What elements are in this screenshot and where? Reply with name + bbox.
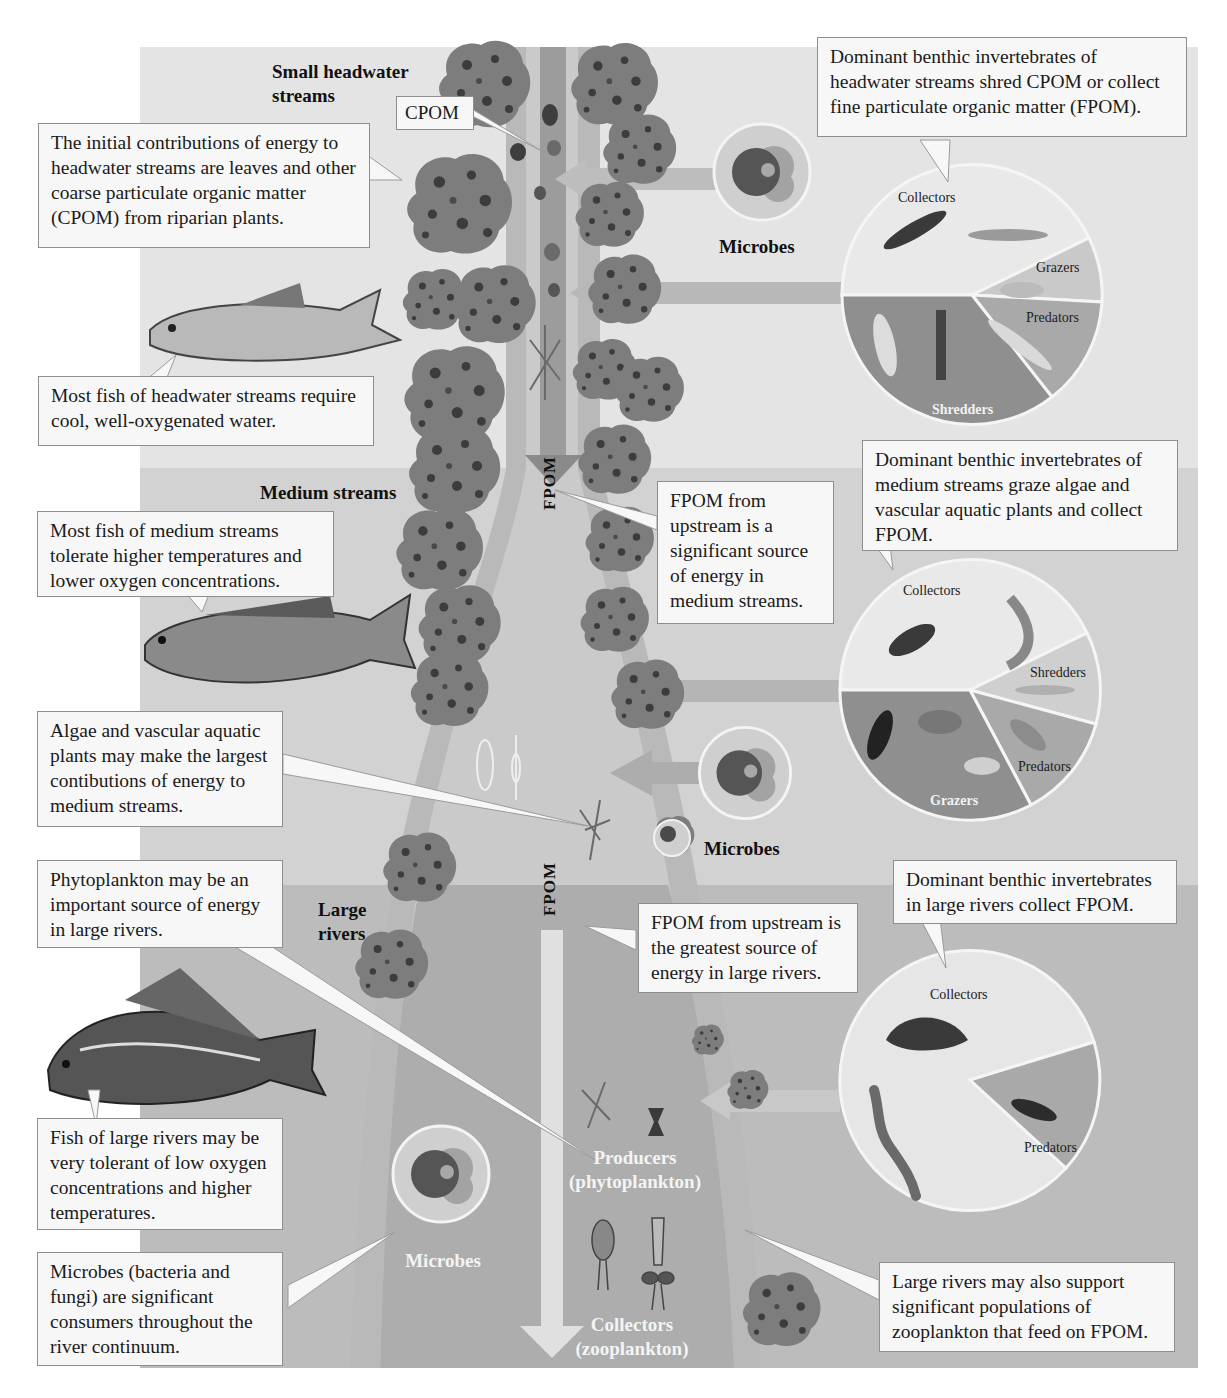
- cpom-label: CPOM: [396, 96, 474, 130]
- pie-label-collectors: Collectors: [898, 190, 956, 205]
- zone-label-medium: Medium streams: [260, 481, 396, 505]
- pie-label-predators: Predators: [1026, 310, 1079, 325]
- zone-label-line: rivers: [318, 922, 367, 946]
- microbes-label-medium: Microbes: [704, 838, 780, 860]
- callout-microbes-consumers: Microbes (bacteria and fungi) are signif…: [37, 1252, 283, 1366]
- carp-fish-icon: [48, 968, 325, 1104]
- pie-label-shredders: Shredders: [1030, 665, 1086, 680]
- callout-large-fish: Fish of large rivers may be very toleran…: [37, 1118, 283, 1230]
- callout-medium-invertebrates: Dominant benthic invertebrates of medium…: [862, 440, 1178, 551]
- tree-icon: [611, 660, 684, 729]
- zooplankton-collectors-label: Collectors (zooplankton): [570, 1313, 694, 1361]
- tree-icon: [403, 269, 467, 330]
- callout-headwater-fish: Most fish of headwater streams require c…: [38, 376, 374, 446]
- callout-large-invertebrates: Dominant benthic invertebrates in large …: [893, 860, 1177, 924]
- tree-icon: [588, 255, 661, 324]
- pie-label-shredders: Shredders: [932, 402, 994, 417]
- microbe-icon: [714, 124, 810, 220]
- pie-label-predators: Predators: [1024, 1140, 1077, 1155]
- callout-headwater-invertebrates: Dominant benthic invertebrates of headwa…: [817, 37, 1187, 137]
- pie-label-collectors: Collectors: [903, 583, 961, 598]
- pie-label-predators: Predators: [1018, 759, 1071, 774]
- microbe-icon: [699, 727, 790, 818]
- collectors-label-line: Collectors: [570, 1313, 694, 1337]
- zone-label-headwater: Small headwater streams: [272, 60, 409, 108]
- tree-icon: [571, 43, 658, 125]
- callout-medium-algae: Algae and vascular aquatic plants may ma…: [37, 711, 283, 827]
- microbe-icon: [393, 1126, 489, 1222]
- tree-icon: [743, 1272, 821, 1346]
- headwater-invertebrate-pie: [842, 165, 1102, 425]
- fpom-arrow-label-bottom: FPOM: [540, 862, 560, 916]
- collectors-label-line: (zooplankton): [570, 1337, 694, 1361]
- callout-large-zooplankton: Large rivers may also support significan…: [879, 1262, 1175, 1352]
- tree-icon: [396, 508, 483, 590]
- pie-label-grazers: Grazers: [930, 793, 979, 808]
- callout-medium-fpom: FPOM from upstream is a significant sour…: [657, 481, 834, 624]
- zone-label-line: streams: [272, 84, 409, 108]
- microbes-label-large: Microbes: [398, 1249, 488, 1273]
- callout-large-phytoplankton: Phytoplankton may be an important source…: [37, 860, 283, 948]
- bass-fish-icon: [145, 595, 415, 683]
- tree-icon: [407, 154, 512, 254]
- pie-label-grazers: Grazers: [1036, 260, 1080, 275]
- zone-label-line: Large: [318, 898, 367, 922]
- pie-label-collectors: Collectors: [930, 987, 988, 1002]
- callout-large-fpom: FPOM from upstream is the greatest sourc…: [638, 903, 858, 993]
- microbes-label-headwater: Microbes: [719, 236, 795, 258]
- trout-fish-icon: [150, 283, 400, 361]
- producers-label: Producers (phytoplankton): [560, 1146, 710, 1194]
- tree-icon: [578, 425, 651, 494]
- producers-label-line: (phytoplankton): [560, 1170, 710, 1194]
- tree-icon: [616, 357, 684, 422]
- tree-icon: [409, 426, 500, 513]
- tree-icon: [404, 346, 504, 441]
- producers-label-line: Producers: [560, 1146, 710, 1170]
- tree-icon: [576, 182, 644, 247]
- fpom-arrow-label-top: FPOM: [540, 456, 560, 510]
- zone-label-large: Large rivers: [318, 898, 367, 946]
- callout-headwater-energy: The initial contributions of energy to h…: [38, 123, 370, 248]
- callout-medium-fish: Most fish of medium streams tolerate hig…: [37, 511, 334, 597]
- zone-label-line: Small headwater: [272, 60, 409, 84]
